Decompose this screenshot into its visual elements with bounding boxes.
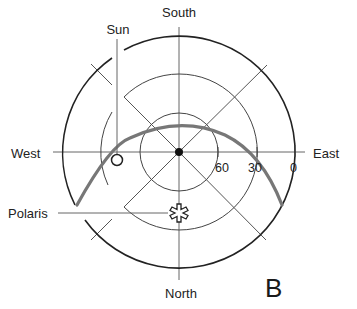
diagonal-ne: [179, 65, 267, 152]
polaris-star-icon: [170, 204, 188, 222]
altitude-circle-30-left: [101, 112, 112, 185]
label-alt-30: 30: [248, 161, 262, 175]
sun-marker: [112, 155, 123, 166]
sky-chart: South North East West Sun Polaris 60 30 …: [0, 0, 357, 309]
tick-sw-outer: [91, 219, 112, 240]
zenith-dot: [175, 148, 183, 156]
horizon-circle-left: [63, 58, 112, 205]
label-south: South: [162, 5, 196, 20]
label-polaris: Polaris: [8, 206, 48, 221]
label-alt-60: 60: [215, 161, 229, 175]
label-west: West: [11, 146, 41, 161]
label-alt-0: 0: [290, 161, 297, 175]
label-north: North: [165, 286, 197, 301]
label-sun: Sun: [106, 22, 129, 37]
label-east: East: [313, 146, 339, 161]
panel-label: B: [265, 273, 282, 303]
